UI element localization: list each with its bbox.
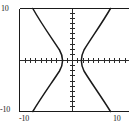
x-axis-max-label: 10	[113, 114, 121, 123]
y-axis-max-label: 10	[1, 4, 9, 13]
y-axis-min-label: -10	[0, 105, 10, 114]
hyperbola-figure: 10 -10 -10 10	[0, 0, 129, 125]
plot-canvas	[0, 0, 129, 125]
axes	[20, 9, 129, 111]
x-axis-min-label: -10	[19, 114, 29, 123]
